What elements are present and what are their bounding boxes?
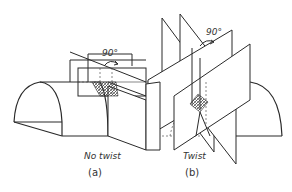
diagram-canvas	[0, 0, 292, 192]
panel-b-caption: Twist	[183, 151, 206, 161]
half-cylinder-front-arc	[14, 82, 62, 122]
half-cylinder-back-arc	[250, 82, 282, 136]
panel-b-letter: (b)	[185, 167, 199, 178]
panel-a-drawing	[14, 52, 146, 150]
panel-a-angle-label: 90°	[102, 48, 118, 58]
panel-a-letter: (a)	[88, 167, 102, 178]
panel-b-angle-label: 90°	[206, 27, 222, 37]
panel-a-caption: No twist	[84, 151, 121, 161]
